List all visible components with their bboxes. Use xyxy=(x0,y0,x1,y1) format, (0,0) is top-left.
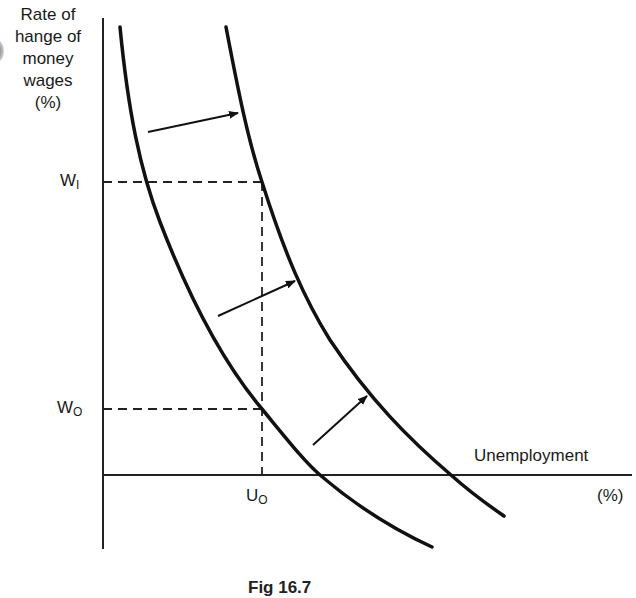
x-axis-label: Unemployment xyxy=(474,447,588,464)
y-axis-label-line: hange of xyxy=(0,26,96,48)
y-axis-label-line: (%) xyxy=(0,92,96,114)
y-axis-label: Rate of hange of money wages (%) xyxy=(0,4,96,114)
w1-label: WI xyxy=(60,172,79,189)
w0-label: WO xyxy=(57,399,82,416)
u0-label: UO xyxy=(246,487,268,504)
original-phillips-curve xyxy=(120,27,432,547)
shift-arrow-icon xyxy=(313,396,367,445)
shift-arrow-icon xyxy=(218,281,295,316)
y-axis-label-line: wages xyxy=(0,70,96,92)
shifted-phillips-curve xyxy=(226,27,504,516)
shift-arrow-icon xyxy=(148,113,238,132)
figure-caption: Fig 16.7 xyxy=(248,578,311,598)
y-axis-label-line: money xyxy=(0,48,96,70)
y-axis-label-line: Rate of xyxy=(0,4,96,26)
x-axis-unit: (%) xyxy=(597,487,623,504)
